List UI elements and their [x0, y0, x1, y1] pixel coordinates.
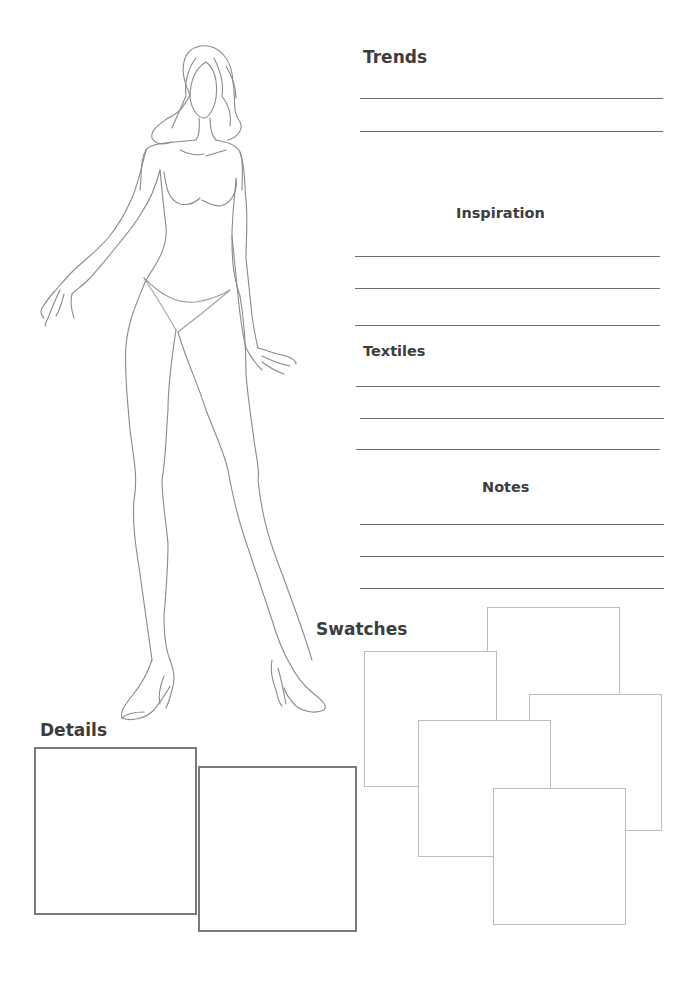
trends-line-1[interactable]: [360, 98, 663, 99]
face-outline: [190, 62, 217, 118]
swatch-box-5[interactable]: [493, 788, 626, 925]
left-leg: [125, 280, 152, 660]
textiles-line-3[interactable]: [356, 449, 660, 450]
inspiration-heading: Inspiration: [456, 205, 545, 221]
inspiration-line-2[interactable]: [355, 288, 660, 289]
swatches-heading: Swatches: [316, 619, 407, 639]
right-leg: [178, 332, 290, 664]
textiles-line-1[interactable]: [356, 386, 660, 387]
detail-box-1[interactable]: [34, 747, 197, 915]
croquis-figure: [0, 0, 340, 730]
textiles-heading: Textiles: [363, 343, 426, 359]
trends-line-2[interactable]: [360, 131, 663, 132]
inspiration-line-3[interactable]: [355, 325, 660, 326]
trends-heading: Trends: [363, 47, 427, 67]
hair-outline: [183, 46, 241, 140]
left-shoe: [121, 660, 170, 720]
notes-line-3[interactable]: [360, 588, 664, 589]
left-arm: [54, 150, 146, 292]
details-heading: Details: [40, 720, 107, 740]
right-shoe: [271, 660, 282, 706]
notes-line-1[interactable]: [360, 524, 664, 525]
detail-box-2[interactable]: [198, 766, 357, 932]
notes-heading: Notes: [482, 479, 530, 495]
inspiration-line-1[interactable]: [355, 256, 660, 257]
textiles-line-2[interactable]: [360, 418, 664, 419]
notes-line-2[interactable]: [360, 556, 664, 557]
